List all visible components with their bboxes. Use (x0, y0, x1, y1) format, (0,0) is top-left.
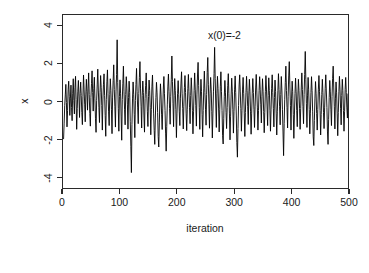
plot-area (62, 14, 349, 189)
x-tick-mark (291, 189, 292, 194)
x-tick-label: 400 (283, 196, 301, 208)
y-tick-label: 0 (42, 99, 54, 105)
x-tick-label: 300 (225, 196, 243, 208)
y-tick-mark (57, 101, 62, 102)
x-tick-label: 100 (111, 196, 129, 208)
y-axis-label: x (18, 98, 30, 103)
x-tick-mark (348, 189, 349, 194)
y-tick-label: -2 (42, 135, 54, 144)
y-tick-mark (57, 177, 62, 178)
initial-value-annotation: x(0)=-2 (208, 29, 241, 41)
trace-plot-figure: x(0)=-2 0100200300400500-4-2024 iteratio… (0, 0, 369, 273)
y-tick-mark (57, 25, 62, 26)
y-tick-label: -4 (42, 173, 54, 182)
x-tick-label: 500 (340, 196, 358, 208)
x-tick-mark (176, 189, 177, 194)
y-tick-mark (57, 63, 62, 64)
y-tick-label: 4 (42, 22, 54, 28)
y-tick-mark (57, 139, 62, 140)
y-tick-label: 2 (42, 61, 54, 67)
x-tick-mark (119, 189, 120, 194)
x-axis-label: iteration (186, 222, 223, 234)
x-tick-mark (234, 189, 235, 194)
trace-line-series (63, 15, 348, 188)
x-tick-label: 0 (59, 196, 65, 208)
x-tick-mark (61, 189, 62, 194)
x-tick-label: 200 (168, 196, 186, 208)
